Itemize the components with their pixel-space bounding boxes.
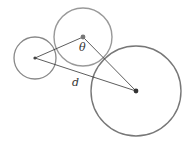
three-circles-diagram: θ d (0, 0, 184, 143)
large-center-dot (134, 89, 139, 94)
segment-small-middle (35, 37, 83, 58)
segment-small-large-d (35, 58, 136, 91)
middle-center-dot (81, 35, 86, 40)
segment-middle-large (83, 37, 136, 91)
center-dots (33, 35, 138, 94)
circles (14, 8, 181, 136)
distance-d-label: d (72, 76, 79, 89)
theta-label: θ (79, 41, 86, 54)
small-center-dot (33, 56, 36, 59)
